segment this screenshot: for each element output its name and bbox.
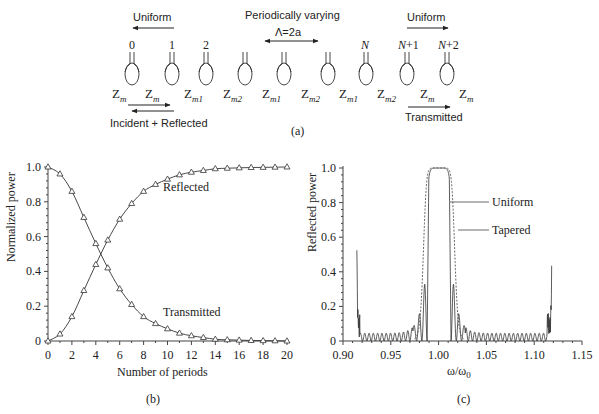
chart-c-ytick: 0.8 [321,197,336,209]
chart-c-ylabel: Reflected power [306,173,318,252]
chart-c-line-uniform [357,168,552,341]
chart-c-xlabel: ω/ω0 [447,365,471,380]
chart-c-ytick: 0.2 [321,300,336,312]
chart-c-xtick: 1.00 [428,349,449,361]
chart-c-xtick: 0.90 [333,349,354,361]
chart-c-xtick: 1.10 [524,349,545,361]
chart-c-xtick: 0.95 [380,349,401,361]
chart-c-label-uniform: Uniform [492,196,533,208]
chart-c-xtick: 1.05 [476,349,497,361]
chart-c-line-tapered [415,168,465,339]
chart-c-ytick: 1.0 [321,162,336,174]
chart-c-caption: (c) [457,393,470,405]
chart-c-xtick: 1.15 [572,349,593,361]
chart-c-label-tapered: Tapered [492,224,530,236]
chart-c-ytick: 0 [330,335,336,347]
chart-c-ytick: 0.4 [321,266,336,278]
chart-c-ytick: 0.6 [321,231,336,243]
